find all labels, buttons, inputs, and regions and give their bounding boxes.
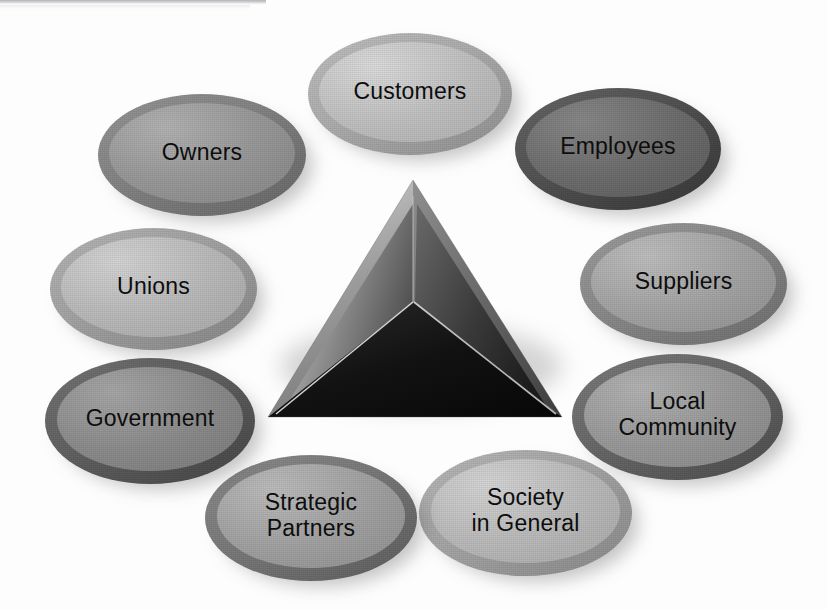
- node-face: Unions: [61, 237, 245, 337]
- stakeholder-node-employees[interactable]: Employees: [515, 88, 721, 210]
- node-face: Owners: [109, 103, 294, 203]
- node-face: Government: [57, 367, 244, 470]
- node-face: Employees: [526, 97, 709, 197]
- stakeholder-node-suppliers[interactable]: Suppliers: [580, 223, 787, 345]
- node-face: Suppliers: [591, 232, 775, 332]
- stakeholder-label-strategic-partners: Strategic Partners: [265, 490, 358, 542]
- node-rim: Suppliers: [580, 223, 787, 345]
- stakeholder-label-customers: Customers: [353, 79, 466, 105]
- node-rim: Society in General: [419, 450, 632, 576]
- node-face: Society in General: [431, 459, 621, 562]
- stakeholder-label-unions: Unions: [117, 274, 190, 300]
- stakeholder-node-customers[interactable]: Customers: [308, 33, 512, 155]
- pyramid-svg: [262, 174, 568, 424]
- node-rim: Customers: [308, 33, 512, 155]
- stakeholder-label-suppliers: Suppliers: [635, 269, 733, 295]
- node-rim: Unions: [50, 228, 257, 350]
- stakeholder-label-government: Government: [86, 406, 215, 432]
- scan-line-artifact-fade: [0, 5, 250, 9]
- stakeholder-node-unions[interactable]: Unions: [50, 228, 257, 350]
- stakeholder-diagram-canvas: CustomersEmployeesSuppliersLocal Communi…: [0, 0, 827, 610]
- central-pyramid: [262, 174, 568, 424]
- stakeholder-node-owners[interactable]: Owners: [98, 94, 306, 216]
- node-rim: Government: [45, 358, 255, 484]
- node-rim: Employees: [515, 88, 721, 210]
- stakeholder-label-local-community: Local Community: [618, 389, 736, 441]
- node-rim: Owners: [98, 94, 306, 216]
- stakeholder-label-owners: Owners: [162, 140, 242, 166]
- node-face: Customers: [319, 42, 501, 142]
- stakeholder-node-government[interactable]: Government: [45, 358, 255, 484]
- stakeholder-label-employees: Employees: [560, 134, 676, 160]
- stakeholder-label-society-in-general: Society in General: [471, 485, 579, 537]
- stakeholder-node-society-in-general[interactable]: Society in General: [419, 450, 632, 576]
